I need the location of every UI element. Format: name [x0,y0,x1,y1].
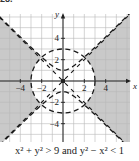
x-tick-label: 4 [103,83,108,93]
x-tick-label: 2 [82,83,87,93]
y-tick-label: −4 [49,119,59,129]
region-plot: −4−22442−2−4xy [0,0,139,161]
x-tick-label: −2 [37,83,47,93]
y-tick-label: −2 [49,97,59,107]
y-axis-label: y [54,9,59,19]
x-tick-label: −4 [16,83,26,93]
x-axis-label: x [132,81,137,91]
inequality-caption: x² + y² > 9 and y² − x² < 1 [0,145,139,156]
y-tick-label: 2 [55,55,60,65]
y-tick-label: 4 [55,33,60,43]
origin-marker [61,79,65,83]
y-axis-arrow-icon [61,13,65,19]
